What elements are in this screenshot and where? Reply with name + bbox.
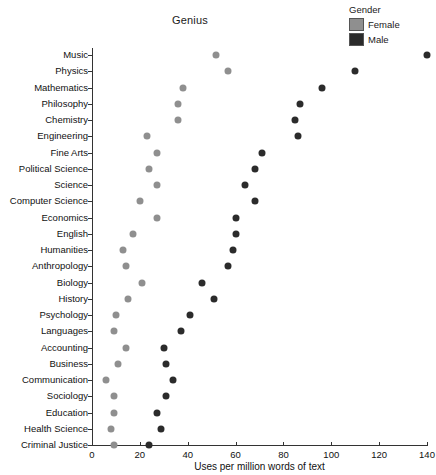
data-point-male [225, 263, 232, 270]
y-axis-tick-label: Psychology [39, 310, 88, 320]
data-point-male [187, 312, 194, 319]
x-axis-tick-label: 120 [371, 449, 387, 460]
data-point-female [153, 182, 160, 189]
data-point-female [129, 230, 136, 237]
data-point-male [153, 409, 160, 416]
y-axis-tick-label: Communication [22, 375, 88, 385]
y-axis-tick-label: Chemistry [45, 115, 88, 125]
data-point-female [179, 84, 186, 91]
data-point-male [318, 84, 325, 91]
data-point-male [199, 279, 206, 286]
data-point-female [122, 344, 129, 351]
data-point-female [108, 425, 115, 432]
y-axis-tick-label: English [57, 229, 88, 239]
y-axis-tick [88, 364, 92, 365]
y-axis-tick-label: Health Science [24, 424, 88, 434]
x-axis-tick-label: 20 [135, 449, 146, 460]
y-axis-tick-label: Humanities [40, 245, 88, 255]
data-point-male [242, 182, 249, 189]
x-axis-tick [331, 442, 332, 446]
data-point-female [225, 68, 232, 75]
y-axis-tick [88, 136, 92, 137]
data-point-female [122, 263, 129, 270]
data-point-female [110, 442, 117, 449]
data-point-female [103, 377, 110, 384]
y-axis-tick-label: Criminal Justice [21, 440, 88, 450]
data-point-male [352, 68, 359, 75]
data-point-male [258, 149, 265, 156]
data-point-male [177, 328, 184, 335]
y-axis-tick-label: Science [54, 180, 88, 190]
data-point-male [294, 133, 301, 140]
x-axis-tick-label: 60 [230, 449, 241, 460]
y-axis-tick [88, 153, 92, 154]
y-axis-tick [88, 120, 92, 121]
data-point-female [136, 198, 143, 205]
data-point-female [110, 328, 117, 335]
x-axis-tick [92, 442, 93, 446]
y-axis-tick-label: Economics [42, 213, 88, 223]
data-point-male [158, 425, 165, 432]
data-point-male [251, 198, 258, 205]
scatter-chart: Genius Gender Female Male MusicPhysicsMa… [0, 0, 436, 475]
data-point-female [146, 165, 153, 172]
data-point-female [110, 409, 117, 416]
x-axis-tick [427, 442, 428, 446]
y-axis-tick [88, 234, 92, 235]
data-point-female [112, 312, 119, 319]
y-axis-tick-label: Mathematics [34, 83, 88, 93]
y-axis-tick-label: Biology [57, 278, 88, 288]
data-point-female [144, 133, 151, 140]
data-point-female [115, 360, 122, 367]
data-point-male [424, 52, 431, 59]
y-axis-tick [88, 266, 92, 267]
y-axis-tick [88, 413, 92, 414]
y-axis-tick-label: Accounting [41, 343, 88, 353]
y-axis-tick-label: Physics [55, 66, 88, 76]
y-axis-tick-label: Philosophy [42, 99, 88, 109]
data-point-male [232, 230, 239, 237]
y-axis-tick [88, 201, 92, 202]
x-axis-tick [140, 442, 141, 446]
data-point-female [213, 52, 220, 59]
x-axis-tick-label: 40 [182, 449, 193, 460]
data-point-male [232, 214, 239, 221]
data-point-female [175, 100, 182, 107]
y-axis-tick [88, 348, 92, 349]
x-axis-tick-label: 100 [323, 449, 339, 460]
y-axis-tick [88, 71, 92, 72]
y-axis-tick-label: Sociology [47, 391, 88, 401]
data-point-female [120, 247, 127, 254]
y-axis-tick-label: Computer Science [10, 196, 88, 206]
y-axis-tick-label: Fine Arts [51, 148, 89, 158]
y-axis-tick-label: Engineering [37, 131, 88, 141]
y-axis-tick-label: History [58, 294, 88, 304]
x-axis-tick-label: 140 [419, 449, 435, 460]
data-point-male [163, 393, 170, 400]
data-point-male [211, 295, 218, 302]
data-point-male [292, 117, 299, 124]
data-point-male [230, 247, 237, 254]
y-axis-tick [88, 429, 92, 430]
x-axis-tick-label: 0 [89, 449, 94, 460]
plot-area: MusicPhysicsMathematicsPhilosophyChemist… [0, 0, 436, 475]
data-point-female [153, 214, 160, 221]
x-axis-tick [236, 442, 237, 446]
y-axis-tick [88, 55, 92, 56]
data-point-male [251, 165, 258, 172]
y-axis-tick-label: Anthropology [32, 261, 88, 271]
y-axis-line [92, 48, 93, 446]
data-point-male [170, 377, 177, 384]
y-axis-tick [88, 218, 92, 219]
y-axis-tick-label: Political Science [19, 164, 88, 174]
y-axis-tick [88, 88, 92, 89]
data-point-female [124, 295, 131, 302]
x-axis-tick [188, 442, 189, 446]
y-axis-tick-label: Music [63, 50, 88, 60]
y-axis-tick [88, 250, 92, 251]
y-axis-tick [88, 380, 92, 381]
y-axis-tick [88, 283, 92, 284]
data-point-female [139, 279, 146, 286]
x-axis-line [92, 445, 427, 446]
y-axis-tick [88, 396, 92, 397]
